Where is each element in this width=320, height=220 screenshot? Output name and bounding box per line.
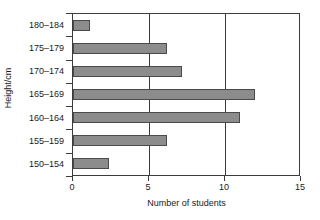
bar bbox=[73, 66, 182, 77]
bar bbox=[73, 158, 109, 169]
y-axis-tick-label: 160–164 bbox=[14, 106, 68, 129]
bar-row bbox=[73, 60, 299, 83]
bar-row bbox=[73, 14, 299, 37]
bar-row bbox=[73, 129, 299, 152]
x-axis-tick-mark bbox=[148, 176, 149, 181]
plot-area bbox=[72, 13, 300, 176]
y-axis-tick-label: 175–179 bbox=[14, 36, 68, 59]
x-axis-tick-mark bbox=[224, 176, 225, 181]
bar-chart: Height/cm 180–184175–179170–174165–16916… bbox=[0, 0, 320, 220]
x-axis-tick-marks bbox=[72, 176, 301, 181]
bar bbox=[73, 112, 240, 123]
x-axis-title: Number of students bbox=[72, 198, 301, 208]
bar bbox=[73, 135, 167, 146]
x-axis-tick-labels: 051015 bbox=[72, 182, 301, 194]
bars-layer bbox=[73, 14, 299, 175]
bar bbox=[73, 43, 167, 54]
bar-row bbox=[73, 83, 299, 106]
x-axis-tick-label: 5 bbox=[145, 182, 150, 192]
y-axis-title-text: Height/cm bbox=[3, 68, 13, 109]
x-axis-tick-label: 0 bbox=[69, 182, 74, 192]
bar-row bbox=[73, 152, 299, 175]
x-axis-tick-mark bbox=[72, 176, 73, 181]
bar-row bbox=[73, 106, 299, 129]
x-axis-tick-label: 10 bbox=[219, 182, 229, 192]
x-axis-tick-mark bbox=[300, 176, 301, 181]
x-axis-tick-label: 15 bbox=[295, 182, 305, 192]
y-axis-tick-label: 180–184 bbox=[14, 13, 68, 36]
bar bbox=[73, 89, 255, 100]
y-axis-tick-label: 155–159 bbox=[14, 129, 68, 152]
bar-row bbox=[73, 37, 299, 60]
bar bbox=[73, 20, 90, 31]
y-axis-tick-label: 170–174 bbox=[14, 60, 68, 83]
y-axis-tick-labels: 180–184175–179170–174165–169160–164155–1… bbox=[14, 13, 68, 176]
y-axis-tick-label: 150–154 bbox=[14, 153, 68, 176]
y-axis-tick-label: 165–169 bbox=[14, 83, 68, 106]
